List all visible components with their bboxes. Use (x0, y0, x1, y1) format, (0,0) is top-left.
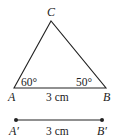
point-a-prime-label: A′ (8, 124, 19, 138)
side-ab-length: 3 cm (46, 91, 69, 103)
point-a-prime (14, 118, 18, 122)
angle-b-label: 50° (76, 76, 93, 88)
vertex-label-a: A (7, 90, 16, 104)
angle-a-label: 60° (21, 76, 38, 88)
point-b-prime (100, 118, 104, 122)
point-b-prime-label: B′ (97, 124, 107, 138)
vertex-label-b: B (103, 90, 111, 104)
vertex-label-c: C (47, 5, 56, 19)
segment-length-label: 3 cm (46, 125, 69, 137)
triangle-construction-diagram: C A B 60° 50° 3 cm A′ 3 cm B′ (0, 0, 116, 138)
